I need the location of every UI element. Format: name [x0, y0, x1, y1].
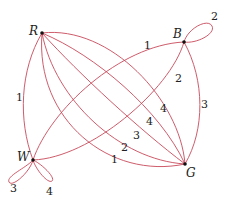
edge-label-w-b-1: 1 [144, 39, 151, 52]
node-label-g: G [186, 166, 196, 180]
node-r [40, 31, 44, 35]
edge-label-loop-w-4: 4 [46, 185, 53, 198]
edge-label-r-g-outer-4: 4 [160, 102, 167, 115]
edge-label-r-w: 1 [16, 91, 23, 104]
edge-label-b-g: 3 [201, 98, 208, 111]
node-label-r: R [28, 24, 38, 38]
edge-label-r-g-2: 2 [121, 141, 128, 154]
loop-w-4 [33, 160, 53, 181]
node-label-b: B [172, 27, 182, 41]
loop-b [184, 23, 213, 42]
edge-r-w [23, 33, 42, 160]
edge-r-g-outer-4 [42, 32, 185, 164]
graph-diagram: R B W G 1 1 2 3 2 3 4 4 4 3 2 1 [0, 0, 227, 202]
edge-label-r-g-3: 3 [133, 129, 140, 142]
edge-label-loop-b: 2 [211, 10, 218, 23]
node-w [31, 158, 35, 162]
edge-label-r-g-4: 4 [146, 115, 153, 128]
edge-b-g [184, 42, 200, 164]
edge-label-loop-w-3: 3 [10, 182, 17, 195]
edge-label-w-b-2: 2 [175, 72, 182, 85]
edge-label-r-g-1: 1 [111, 153, 118, 166]
node-b [182, 40, 186, 44]
node-label-w: W [17, 150, 31, 164]
